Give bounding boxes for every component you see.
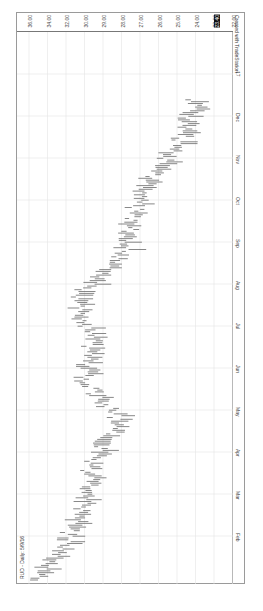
time-tick: Aug — [235, 281, 241, 290]
time-tick: Jun — [235, 365, 241, 373]
price-tick: 29.00 — [101, 15, 107, 28]
price-tick: 26.00 — [157, 15, 163, 28]
price-tick: 34.00 — [46, 15, 52, 28]
price-series — [17, 32, 233, 584]
price-axis: 36.0034.0032.0030.0029.0028.0027.0026.00… — [17, 13, 233, 31]
price-tick: 36.00 — [27, 15, 33, 28]
plot-area: RUD - Daily: 5/9/16 — [17, 31, 233, 583]
time-tick: Nov — [235, 155, 241, 164]
credit-label: Created with TradeStation — [234, 15, 240, 73]
time-tick: Feb — [235, 533, 241, 542]
current-price-marker: 23.40 — [214, 15, 220, 28]
time-tick: Dec — [235, 113, 241, 122]
price-tick: 25.00 — [175, 15, 181, 28]
time-tick: Apr — [235, 449, 241, 457]
price-tick: 27.00 — [138, 15, 144, 28]
chart-frame: 36.0034.0032.0030.0029.0028.0027.0026.00… — [16, 12, 245, 584]
price-tick: 28.00 — [120, 15, 126, 28]
time-tick: May — [235, 407, 241, 416]
time-tick: Sep — [235, 239, 241, 248]
price-tick: 24.00 — [194, 15, 200, 28]
price-tick: 32.00 — [64, 15, 70, 28]
time-tick: Jul — [235, 323, 241, 329]
chart-title: RUD - Daily: 5/9/16 — [19, 536, 25, 579]
time-tick: Oct — [235, 197, 241, 205]
price-tick: 30.00 — [83, 15, 89, 28]
time-tick: Mar — [235, 491, 241, 500]
time-axis: FebMarAprMayJunJulAugSepOctNovDec17 — [233, 31, 245, 583]
